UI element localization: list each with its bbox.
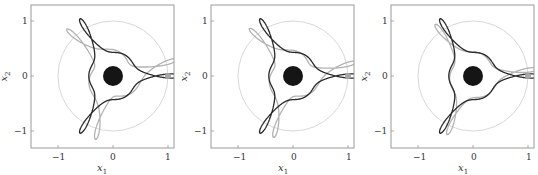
plot-area xyxy=(180,0,360,175)
central-body xyxy=(283,66,303,86)
xtick-neg1: −1 xyxy=(413,153,426,162)
xtick-1: 1 xyxy=(165,153,171,162)
ytick-neg1: −1 xyxy=(194,127,207,136)
marker-point xyxy=(345,73,351,79)
plot-panel-2: 1 0 −1 −1 0 1 x1 x2 xyxy=(180,0,360,175)
x-axis-label: x1 xyxy=(458,163,468,175)
ytick-0: 0 xyxy=(202,72,208,81)
marker-point xyxy=(525,73,531,79)
xtick-0: 0 xyxy=(291,153,297,162)
dark-trajectory xyxy=(260,19,360,134)
x-axis-label: x1 xyxy=(97,163,107,175)
marker-point xyxy=(165,73,171,79)
x-axis-label: x1 xyxy=(278,163,288,175)
central-body xyxy=(463,66,483,86)
ytick-1: 1 xyxy=(382,17,388,26)
y-axis-label: x2 xyxy=(0,71,12,81)
plot-panel-3: 1 0 −1 −1 0 1 x1 x2 xyxy=(358,0,538,175)
ytick-neg1: −1 xyxy=(14,127,27,136)
ytick-0: 0 xyxy=(22,72,28,81)
xtick-1: 1 xyxy=(526,153,532,162)
ytick-0: 0 xyxy=(382,72,388,81)
plot-panel-1: 1 0 −1 −1 0 1 x1 x2 xyxy=(0,0,180,175)
ytick-neg1: −1 xyxy=(374,127,387,136)
plot-area xyxy=(0,0,180,175)
ytick-1: 1 xyxy=(202,17,208,26)
xtick-1: 1 xyxy=(346,153,352,162)
plot-area xyxy=(358,0,538,175)
xtick-neg1: −1 xyxy=(233,153,246,162)
y-axis-label: x2 xyxy=(179,71,192,81)
xtick-0: 0 xyxy=(110,153,116,162)
central-body xyxy=(103,66,123,86)
ytick-1: 1 xyxy=(22,17,28,26)
xtick-neg1: −1 xyxy=(52,153,65,162)
dark-trajectory xyxy=(80,19,180,134)
xtick-0: 0 xyxy=(471,153,477,162)
y-axis-label: x2 xyxy=(359,71,372,81)
